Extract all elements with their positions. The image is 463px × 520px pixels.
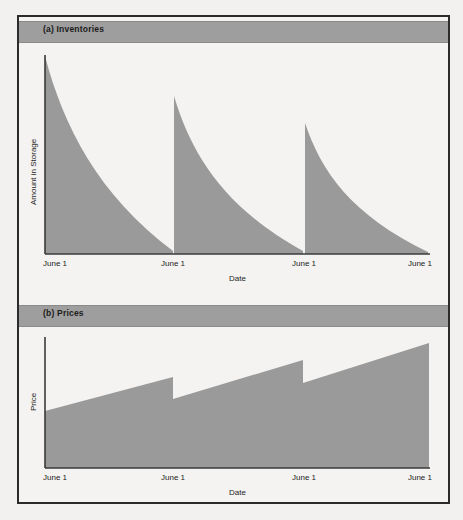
panel-inventories: (a) Inventories	[19, 21, 448, 286]
prices-xtick-0: June 1	[43, 473, 67, 482]
inventories-x-axis-title: Date	[43, 274, 432, 283]
prices-xtick-3: June 1	[408, 473, 432, 482]
inventories-xtick-0: June 1	[43, 259, 67, 268]
plot-area-inventories: Amount in Storage June 1 June 1 June 1 J…	[43, 55, 432, 257]
figure-page: (a) Inventories	[0, 0, 463, 520]
inventories-xtick-3: June 1	[408, 259, 432, 268]
plot-area-prices: Price June 1 June 1 June 1 June 1 Date	[43, 337, 432, 473]
prices-xtick-2: June 1	[292, 473, 316, 482]
prices-xtick-1: June 1	[161, 473, 185, 482]
prices-x-axis-title: Date	[43, 488, 432, 497]
prices-sawtooth-area	[45, 343, 429, 468]
inventories-chart-svg	[43, 55, 432, 257]
inventories-y-axis-title: Amount in Storage	[29, 139, 38, 205]
prices-chart-svg	[43, 337, 432, 473]
panel-title-prices: (b) Prices	[43, 308, 84, 318]
inventories-cycle-3	[305, 123, 428, 254]
panel-title-inventories: (a) Inventories	[43, 24, 104, 34]
inventories-cycle-2	[174, 96, 303, 254]
inventories-cycle-1	[45, 56, 173, 254]
panel-prices: (b) Prices Price June 1 June 1 June 1 Ju…	[19, 305, 448, 505]
figure-frame: (a) Inventories	[17, 15, 450, 504]
prices-series-area	[45, 343, 429, 468]
inventories-series-area	[45, 56, 428, 254]
prices-y-axis-title: Price	[29, 393, 38, 411]
inventories-xtick-2: June 1	[292, 259, 316, 268]
inventories-xtick-1: June 1	[161, 259, 185, 268]
